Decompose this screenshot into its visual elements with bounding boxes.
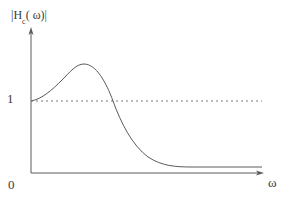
- y-axis-title: |Hc( ω)|: [11, 9, 47, 21]
- magnitude-response-curve: [31, 64, 262, 167]
- diagram-svg: [0, 0, 292, 199]
- y-axis-title-suffix: ( ω)|: [26, 8, 47, 22]
- y-tick-one: 1: [7, 92, 14, 105]
- diagram-canvas: |Hc( ω)| 1 0 ω: [0, 0, 292, 199]
- y-axis-title-prefix: |H: [11, 8, 22, 22]
- x-axis-title: ω: [268, 176, 277, 189]
- y-axis-title-subscript: c: [22, 17, 26, 26]
- origin-label: 0: [8, 178, 15, 191]
